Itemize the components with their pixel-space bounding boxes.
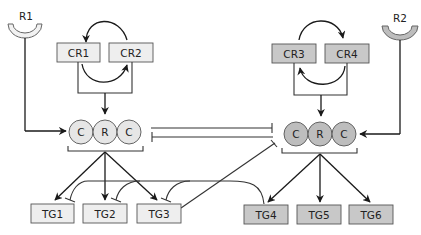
receptor-r1-label: R1 — [19, 10, 33, 22]
receptor-r1: R1 — [8, 10, 66, 131]
left-coregulator-group: CR1 CR2 — [57, 21, 153, 114]
tg3-inhibits-right-tbar — [271, 140, 277, 147]
left-activations — [55, 152, 157, 200]
cr2-label: CR2 — [120, 47, 141, 59]
tg5-label: TG5 — [307, 209, 329, 221]
left-complex-r-label: R — [101, 126, 108, 138]
right-complex: C R C — [282, 122, 357, 153]
mutual-inhibition — [151, 123, 273, 142]
receptor-r2: R2 — [360, 12, 418, 134]
tg4-inhibits-tg3-line — [166, 181, 190, 200]
receptor-r1-shape — [8, 24, 42, 38]
arrow-to-tg6 — [320, 154, 370, 202]
tg3-inhibits-right-line — [181, 143, 275, 208]
right-complex-c1-label: C — [292, 128, 299, 140]
left-complex-c2-label: C — [125, 126, 132, 138]
tg2-label: TG2 — [93, 208, 115, 220]
cr-cycle-top-arrow-right — [299, 21, 343, 40]
target-genes: TG1 TG2 TG3 TG4 TG5 TG6 — [31, 204, 393, 224]
cr-bracket-left — [78, 62, 132, 93]
right-complex-c2-label: C — [340, 128, 347, 140]
arrow-to-tg1 — [55, 152, 105, 200]
cr3-label: CR3 — [283, 48, 304, 60]
receptor-r2-label: R2 — [393, 12, 407, 24]
tg1-label: TG1 — [41, 208, 63, 220]
tg4-label: TG4 — [254, 209, 277, 221]
tg4-inhibitions — [65, 181, 264, 204]
right-complex-bracket — [282, 148, 357, 153]
receptor-r2-shape — [382, 26, 418, 40]
left-complex-bracket — [68, 146, 143, 151]
tg4-inhibits-tg2-line — [116, 181, 140, 200]
right-complex-r-label: R — [316, 128, 323, 140]
arrow-to-tg3 — [105, 152, 157, 200]
tg6-label: TG6 — [359, 209, 382, 221]
cr-cycle-bottom-arrow-left — [82, 64, 127, 82]
gene-regulatory-diagram: R1 R2 CR1 CR2 CR3 CR4 C R — [0, 0, 421, 235]
cr-cycle-top-arrow-left — [86, 21, 127, 42]
left-complex: C R C — [68, 120, 143, 151]
right-coregulator-group: CR3 CR4 — [272, 21, 369, 116]
cr4-label: CR4 — [336, 48, 358, 60]
cr-cycle-bottom-arrow-right — [300, 66, 345, 84]
arrow-to-tg4 — [268, 154, 320, 202]
tg3-label: TG3 — [147, 208, 169, 220]
left-complex-c1-label: C — [77, 126, 84, 138]
cr1-label: CR1 — [68, 47, 89, 59]
right-activations — [268, 154, 370, 202]
